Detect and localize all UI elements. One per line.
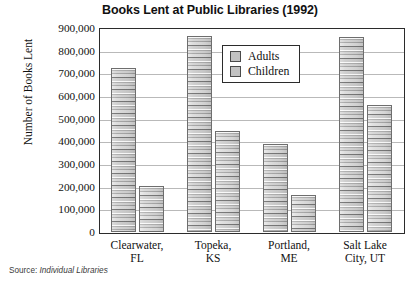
y-axis-tick-label: 100,000 bbox=[5, 203, 95, 215]
legend-item-children: Children bbox=[230, 64, 289, 79]
bar-children-0 bbox=[139, 186, 164, 232]
bar-adults-0 bbox=[111, 68, 136, 232]
legend-swatch-adults bbox=[230, 51, 241, 62]
legend-swatch-children bbox=[230, 66, 241, 77]
x-axis-label-3: Salt LakeCity, UT bbox=[327, 239, 403, 265]
legend-item-adults: Adults bbox=[230, 49, 289, 64]
x-axis-label-0: Clearwater,FL bbox=[99, 239, 175, 265]
chart-figure: Books Lent at Public Libraries (1992) Nu… bbox=[0, 0, 420, 283]
y-axis-tick-label: 600,000 bbox=[5, 90, 95, 102]
y-axis-tick-label: 0 bbox=[5, 226, 95, 238]
legend-label-adults: Adults bbox=[248, 49, 279, 64]
y-axis-tick-label: 300,000 bbox=[5, 158, 95, 170]
x-axis-category-labels: Clearwater,FLTopeka,KSPortland,MESalt La… bbox=[99, 239, 403, 273]
y-axis-tick-label: 700,000 bbox=[5, 67, 95, 79]
y-axis-tick-label: 400,000 bbox=[5, 135, 95, 147]
bar-children-2 bbox=[291, 195, 316, 232]
chart-legend: Adults Children bbox=[222, 45, 300, 83]
bar-children-3 bbox=[367, 105, 392, 232]
x-axis-label-2: Portland,ME bbox=[251, 239, 327, 265]
source-prefix: Source: bbox=[9, 266, 37, 275]
chart-title: Books Lent at Public Libraries (1992) bbox=[0, 3, 420, 17]
bar-adults-2 bbox=[263, 144, 288, 232]
y-axis-tick-label: 200,000 bbox=[5, 181, 95, 193]
bar-adults-1 bbox=[187, 36, 212, 232]
y-axis-tick-label: 900,000 bbox=[5, 22, 95, 34]
y-axis-tick-labels: 900,000800,000700,000600,000500,000400,0… bbox=[0, 28, 95, 232]
source-reference: Individual Libraries bbox=[40, 266, 108, 275]
legend-label-children: Children bbox=[248, 64, 289, 79]
y-axis-tick-label: 800,000 bbox=[5, 45, 95, 57]
bar-adults-3 bbox=[339, 37, 364, 232]
y-axis-tick-label: 500,000 bbox=[5, 113, 95, 125]
bar-children-1 bbox=[215, 131, 240, 232]
x-axis-label-1: Topeka,KS bbox=[175, 239, 251, 265]
source-note: Source: Individual Libraries bbox=[9, 266, 108, 275]
